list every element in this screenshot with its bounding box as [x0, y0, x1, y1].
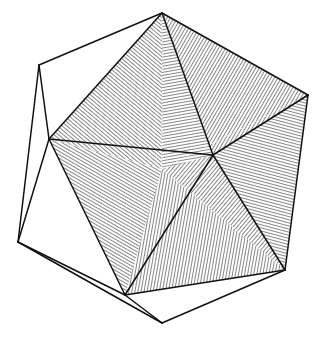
edge	[125, 295, 162, 323]
icosahedron-diagram	[0, 0, 324, 341]
edge	[18, 139, 49, 242]
edge	[39, 65, 49, 139]
hatched-faces	[49, 13, 308, 295]
edge	[18, 65, 39, 242]
